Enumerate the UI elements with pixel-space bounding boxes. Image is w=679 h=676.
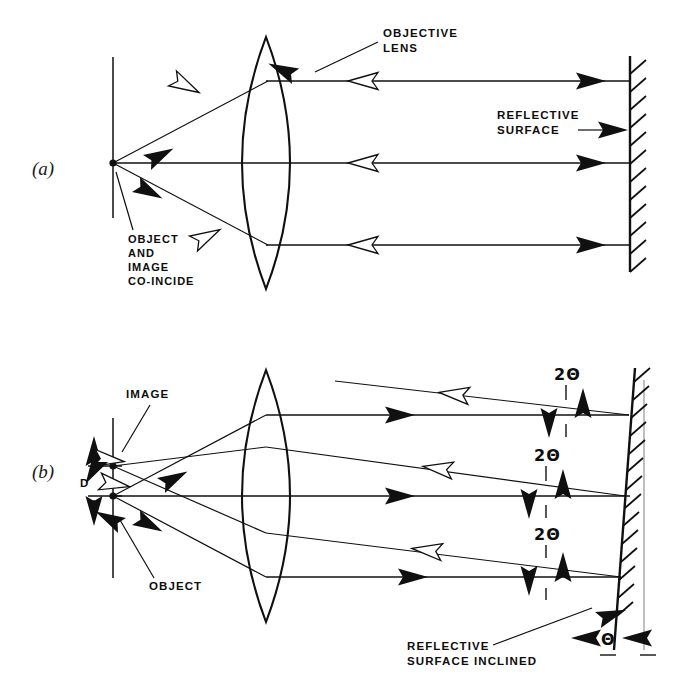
hatch-marks-b [617, 368, 650, 616]
reflective-surface-label-line1-a: REFLECTIVE [497, 109, 580, 121]
tilt-arrow-left [571, 630, 601, 647]
objective-lens-label-line2: LENS [383, 42, 418, 54]
hatch-marks-a [630, 60, 646, 272]
angle-label-bottom: 2Θ [534, 525, 561, 544]
reflective-surface-inclined-b [614, 368, 635, 650]
reflective-surface-label-line2-a: SURFACE [497, 124, 560, 136]
angle-top-arrow-upper [541, 408, 558, 438]
object-image-label-line4: CO-INCIDE [128, 275, 194, 287]
arrow-hollow-lower-b [411, 540, 443, 561]
panel-a-label: (a) [32, 158, 54, 180]
angle-top-arrow-lower [575, 388, 592, 418]
tilt-angle-label: Θ [601, 630, 616, 649]
angle-mid-arrow-upper [521, 489, 538, 519]
panel-b: (b) D [32, 365, 656, 667]
image-leader-b [122, 405, 150, 452]
object-label-b: OBJECT [149, 580, 202, 592]
arrow-hollow-diverge-lower-a [190, 222, 224, 251]
angle-label-middle: 2Θ [534, 446, 561, 465]
tilt-arrow-right [622, 630, 652, 647]
angle-bot-arrow-upper [521, 566, 538, 596]
arrow-hollow-middle-b [422, 458, 454, 479]
object-image-label-line3: IMAGE [128, 261, 169, 273]
object-image-label-line1: OBJECT [128, 233, 179, 245]
optics-figure: (a) [0, 0, 679, 676]
reflective-surface-inclined-label-line1: REFLECTIVE [407, 640, 490, 652]
arrow-solid-ray-lower-b [132, 510, 166, 539]
panel-a: (a) [32, 27, 646, 289]
arrow-hollow-diverge-upper-a [169, 71, 203, 100]
arrow-solid-ray-upper-b [157, 464, 191, 493]
image-label-b: IMAGE [126, 388, 169, 400]
reflective-surface-inclined-label-line2: SURFACE INCLINED [407, 655, 537, 667]
angle-mid-arrow-lower [555, 469, 572, 499]
objective-lens-leader-arrow [265, 56, 299, 84]
object-image-label-line2: AND [128, 247, 155, 259]
panel-b-label: (b) [32, 461, 54, 483]
object-image-leader [116, 172, 133, 230]
arrow-hollow-upper-b [438, 384, 470, 404]
objective-lens-label-line1: OBJECTIVE [383, 27, 458, 39]
objective-lens-leader [315, 42, 378, 72]
reflective-surface-inclined-leader-arrow [595, 602, 629, 628]
object-leader-b [120, 520, 154, 578]
arrow-hollow-object-b [98, 473, 130, 495]
arrow-solid-diverge-upper-a [143, 141, 177, 170]
arrow-solid-diverge-lower-a [132, 177, 166, 206]
angle-label-top: 2Θ [554, 365, 581, 384]
